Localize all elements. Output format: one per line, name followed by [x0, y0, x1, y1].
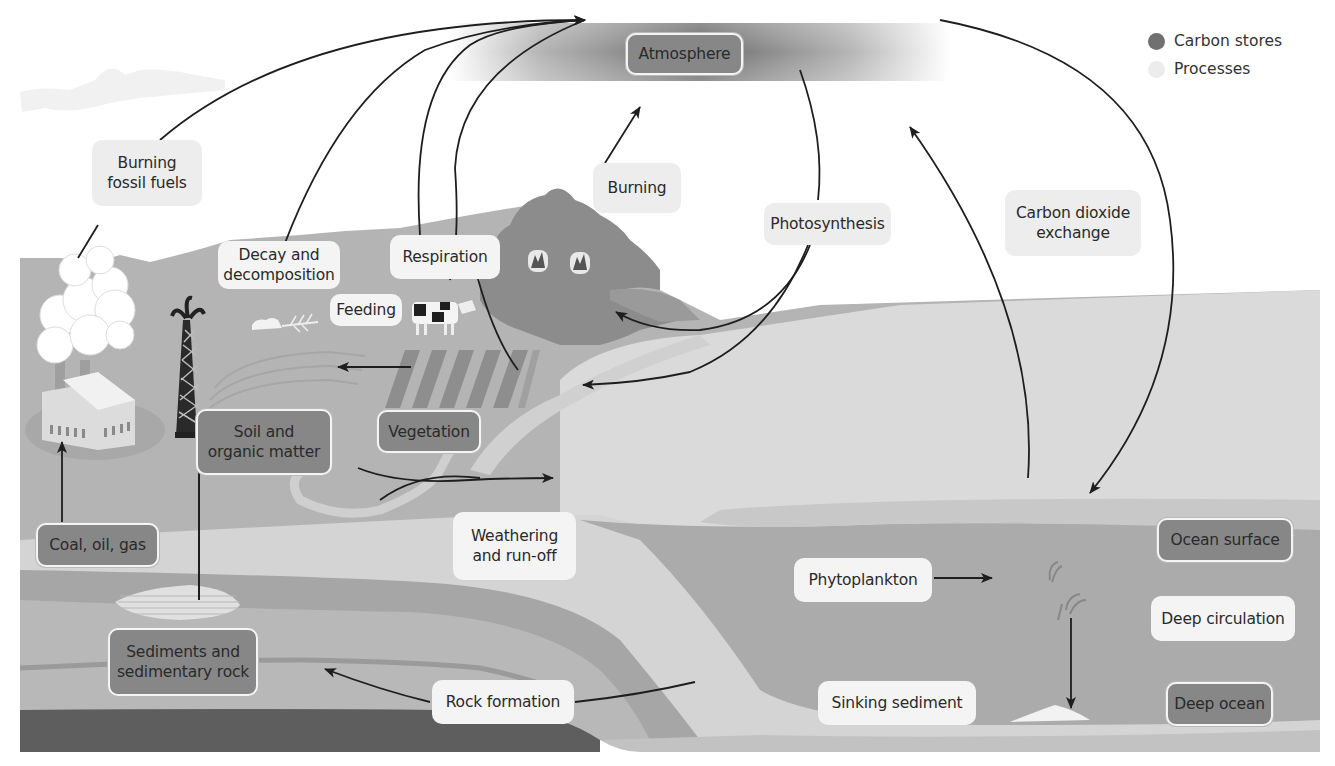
legend-label: Processes [1174, 60, 1250, 78]
distant-clouds [20, 69, 225, 112]
carbon-cycle-diagram: Atmosphere Soil and organic matter Veget… [0, 0, 1335, 766]
store-deep-ocean: Deep ocean [1166, 682, 1273, 726]
carbon-store-swatch-icon [1148, 33, 1165, 50]
process-sinking-sediment: Sinking sediment [818, 681, 976, 725]
store-soil-organic-matter: Soil and organic matter [196, 409, 332, 475]
process-swatch-icon [1148, 61, 1165, 78]
process-respiration: Respiration [390, 235, 500, 279]
store-ocean-surface: Ocean surface [1157, 518, 1293, 562]
process-carbon-dioxide-exchange: Carbon dioxide exchange [1005, 190, 1141, 256]
legend-item-processes: Processes [1148, 58, 1282, 80]
process-photosynthesis: Photosynthesis [764, 203, 891, 245]
store-vegetation: Vegetation [377, 410, 481, 453]
store-atmosphere: Atmosphere [626, 33, 743, 75]
process-burning: Burning [593, 163, 681, 213]
process-decay-decomposition: Decay and decomposition [218, 241, 340, 289]
legend-label: Carbon stores [1174, 32, 1282, 50]
store-coal-oil-gas: Coal, oil, gas [36, 523, 159, 567]
process-deep-circulation: Deep circulation [1151, 596, 1295, 641]
legend: Carbon stores Processes [1148, 30, 1282, 86]
process-burning-fossil-fuels: Burning fossil fuels [92, 140, 202, 206]
process-feeding: Feeding [330, 294, 402, 326]
legend-item-carbon-stores: Carbon stores [1148, 30, 1282, 52]
process-weathering-run-off: Weathering and run-off [453, 512, 576, 580]
store-sediments-rock: Sediments and sedimentary rock [108, 628, 258, 696]
process-phytoplankton: Phytoplankton [794, 558, 932, 602]
process-rock-formation: Rock formation [432, 680, 574, 724]
